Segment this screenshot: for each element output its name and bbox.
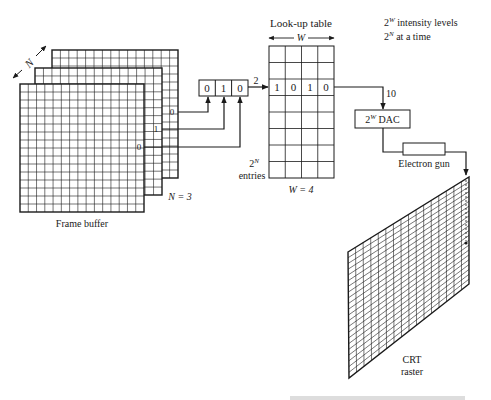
register-bit-0: 0 [204, 82, 210, 94]
index-value: 2 [254, 75, 259, 86]
register-bit-1: 1 [221, 82, 227, 94]
entries-label: entries [239, 170, 266, 181]
entries-count: 2N [249, 157, 259, 169]
lut-to-dac-wire [334, 87, 383, 109]
plane-bit-middle: 1 [154, 124, 159, 134]
lut-width-label: W [297, 32, 307, 43]
beam-spot [464, 241, 467, 244]
dac-box: 2W DAC [355, 110, 410, 128]
truncated-caption [290, 396, 465, 400]
depth-label: N [21, 56, 36, 71]
note-intensity-levels: 2W intensity levels [384, 16, 458, 28]
plane-bit-back: 0 [170, 107, 175, 117]
lut-cell-1: 0 [291, 81, 297, 93]
register-bit-2: 0 [237, 82, 243, 94]
electron-gun [403, 143, 445, 155]
lut-output-value: 10 [386, 88, 396, 99]
lut-cell-0: 1 [274, 81, 280, 93]
lut-title: Look-up table [270, 17, 332, 29]
register: 0 1 0 [199, 80, 248, 96]
crt-raster [348, 177, 469, 378]
frame-buffer-lut-diagram: N 0 1 0 0 1 0 2 Look-up table W 1 0 1 0 … [0, 0, 491, 400]
crt-raster-label: raster [401, 366, 424, 377]
frame-buffer-plane-2 [20, 84, 144, 212]
lut-width-arrow: W [269, 32, 334, 43]
frame-buffer-label: Frame buffer [56, 218, 109, 229]
lookup-table-grid [269, 46, 334, 178]
planes-label: N = 3 [167, 191, 191, 202]
note-at-a-time: 2N at a time [384, 30, 431, 42]
lut-cell-3: 0 [323, 81, 329, 93]
dac-to-gun-wire [383, 128, 403, 152]
lut-width-value: W = 4 [288, 184, 313, 195]
plane-bit-front: 0 [137, 142, 142, 152]
lut-cell-2: 1 [307, 81, 313, 93]
electron-gun-label: Electron gun [398, 158, 449, 169]
crt-label: CRT [403, 354, 422, 365]
